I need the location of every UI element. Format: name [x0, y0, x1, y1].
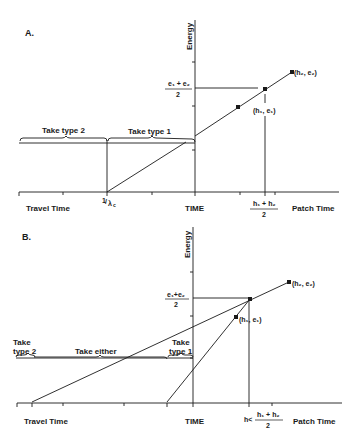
panel-a-time-label: TIME: [185, 204, 205, 213]
panel-a-energy-mid-num: e₁ + e₂: [168, 80, 190, 87]
panel-b-y-axis-label: Energy: [183, 230, 192, 258]
lambda-sub: c: [113, 202, 116, 208]
panel-a-point-mid: [236, 105, 240, 109]
panel-a-patch-time-label: Patch Time: [292, 204, 335, 213]
panel-a-lambda-label: 1 / λ c: [102, 197, 116, 208]
panel-a-time-mid-den: 2: [262, 211, 266, 218]
panel-b-time-mid-prefix: h<: [244, 416, 252, 423]
panel-a-gain-line: [195, 72, 292, 136]
lambda-den: λ: [108, 200, 112, 207]
panel-b-energy-mid-den: 2: [174, 301, 178, 308]
panel-a-brace-type1: [108, 136, 195, 142]
panel-b-travel-time-label: Travel Time: [24, 417, 68, 426]
panel-b-patch-time-label: Patch Time: [293, 417, 336, 426]
panel-b-point-h2e2: [287, 280, 291, 284]
panel-a-brace-label-type1: Take type 1: [128, 127, 172, 136]
panel-b-points: [234, 280, 291, 319]
panel-a-point2-label: (h₂, e₂): [294, 69, 317, 77]
panel-a: [19, 20, 339, 196]
panel-a-brace-label-type2: Take type 2: [42, 126, 86, 135]
panel-a-label: A.: [25, 28, 34, 38]
panel-b-brace-type2-line1: Take: [13, 338, 31, 347]
panel-b-energy-mid-num: e₁+e₂: [167, 291, 185, 298]
panel-b-brace-type1-line1: Take: [172, 338, 190, 347]
panel-b-point-h1e1: [234, 315, 238, 319]
diagram-canvas: A. Energy Take type 2 Take type 1 e₁ + e…: [0, 0, 362, 440]
panel-a-y-axis-label: Energy: [185, 22, 194, 50]
panel-b-brace-either-label: Take either: [75, 347, 117, 356]
panel-b-point1-label: (h₁, e₁): [239, 316, 262, 324]
panel-b-brace-type2-line2: type 2: [13, 347, 37, 356]
panel-a-point1-label: (h₁, e₁): [253, 107, 276, 115]
panel-a-point-avg: [263, 87, 267, 91]
panel-b-time-mid-num: h₁ + h₂: [257, 411, 280, 418]
panel-b-point2-label: (h₂, e₂): [292, 280, 315, 288]
panel-b-time-mid-den: 2: [266, 422, 270, 429]
panel-b-label: B.: [22, 232, 31, 242]
panel-b: [16, 227, 342, 407]
panel-a-travel-time-label: Travel Time: [26, 204, 70, 213]
panel-a-time-mid-num: h₁ + h₂: [253, 200, 276, 207]
panel-b-brace-type1-line2: type 1: [169, 347, 193, 356]
panel-a-travel-line: [107, 142, 186, 192]
lambda-slash: /: [105, 198, 107, 205]
panel-b-point-avg: [248, 297, 252, 301]
panel-a-energy-mid-den: 2: [176, 91, 180, 98]
panel-a-brace-type2: [20, 136, 107, 141]
panel-b-time-label: TIME: [185, 417, 205, 426]
